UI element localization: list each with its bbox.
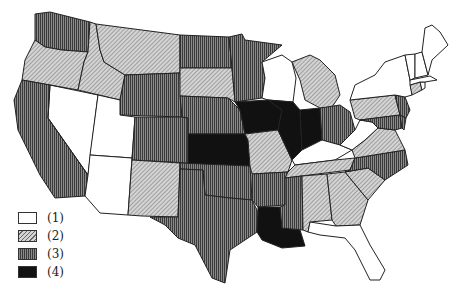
state-NM <box>128 160 180 217</box>
state-CO <box>132 117 188 163</box>
legend-swatch-black <box>18 266 37 278</box>
legend-item-2: (2) <box>18 228 64 244</box>
legend-label: (2) <box>47 229 64 243</box>
state-KS <box>188 134 250 166</box>
state-AZ <box>85 155 132 215</box>
legend-item-3: (3) <box>18 246 64 262</box>
legend-label: (3) <box>47 247 64 261</box>
legend-label: (1) <box>47 211 64 225</box>
state-AR <box>252 172 288 207</box>
state-WI <box>262 55 296 102</box>
us-choropleth-map <box>0 0 462 295</box>
legend: (1) (2) (3) (4) <box>18 210 64 282</box>
state-ME <box>422 25 448 75</box>
legend-item-1: (1) <box>18 210 64 226</box>
legend-swatch-light-hatch <box>18 230 37 242</box>
state-ND <box>180 35 232 68</box>
legend-item-4: (4) <box>18 264 64 280</box>
state-NY <box>350 55 412 100</box>
legend-label: (4) <box>47 265 64 279</box>
state-FL <box>308 222 385 280</box>
state-MI <box>292 55 340 110</box>
state-WY <box>120 73 182 117</box>
legend-swatch-white <box>18 212 37 224</box>
legend-swatch-dark-hatch <box>18 248 37 260</box>
